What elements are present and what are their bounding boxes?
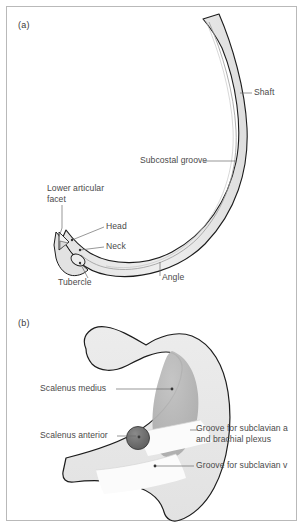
label-scalenus-medius: Scalenus medius xyxy=(40,383,106,394)
figure-root: (a) xyxy=(0,0,305,529)
label-neck: Neck xyxy=(106,241,126,252)
label-angle: Angle xyxy=(162,272,184,283)
leader-neck-dot xyxy=(79,249,81,251)
leader-head xyxy=(72,227,104,240)
label-groove-subclavian-vein: Groove for subclavian v xyxy=(196,460,287,471)
label-head: Head xyxy=(106,221,127,232)
panel-b-letter: (b) xyxy=(18,318,30,328)
label-tubercle: Tubercle xyxy=(58,277,92,288)
label-shaft: Shaft xyxy=(254,87,274,98)
scalenus-anterior-area xyxy=(127,427,150,450)
label-scalenus-anterior: Scalenus anterior xyxy=(40,430,108,441)
leader-groove-subclavian-vein-dot xyxy=(154,465,157,468)
leader-scalenus-anterior-dot xyxy=(138,436,141,439)
figure-artwork xyxy=(0,0,305,529)
leader-head-dot xyxy=(71,239,73,241)
label-subcostal-groove: Subcostal groove xyxy=(140,155,207,166)
label-groove-subclavian-artery: Groove for subclavian a and brachial ple… xyxy=(196,423,292,445)
rib-typical-drawing xyxy=(54,14,252,278)
label-lower-articular-facet: Lower articular facet xyxy=(47,183,121,205)
leader-tubercle-dot xyxy=(79,262,81,264)
rib-shaft-outline xyxy=(62,14,247,277)
leader-scalenus-medius-dot xyxy=(171,388,174,391)
